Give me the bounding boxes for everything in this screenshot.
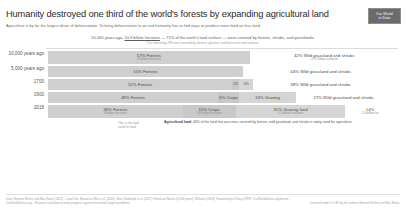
segment-label: 38% Wild grassland and shrubs — [290, 82, 350, 87]
segment-sublabel: +1% Urban surfaces — [310, 58, 338, 62]
segment-forest[interactable]: 48% Forests — [48, 92, 218, 103]
page-subtitle: Agriculture is by far the largest driver… — [6, 23, 398, 28]
chart-row: 190048% Forests6% Crops16% Grazing27% Wi… — [4, 92, 402, 103]
segment-crops[interactable]: 15% Crops1.6 billion hectares — [183, 105, 236, 118]
annotation-body: 46% of the land that was once covered by… — [192, 120, 353, 124]
owid-logo-line2: in Data — [369, 16, 400, 20]
row-label-1700: 1700 — [4, 79, 48, 84]
intro-text-underlined: 10.6 billion hectares — [124, 35, 160, 40]
row-label-10-000-years-ago: 10,000 years ago — [4, 51, 48, 56]
annotation-pointer-line2: used for food — [118, 125, 160, 129]
row-bars: 55% Forests44% Wild grassland and shrubs — [48, 66, 402, 77]
intro-text-before: 10,000 years ago, — [91, 35, 124, 40]
footer-owid-note: OurWorldInData.org – Research and data t… — [6, 202, 300, 206]
segment-forest[interactable]: 38% Forests4 billion hectares — [48, 105, 183, 118]
row-bars: 48% Forests6% Crops16% Grazing27% Wild g… — [48, 92, 402, 103]
intro-main-line: 10,000 years ago, 10.6 billion hectares … — [26, 35, 380, 40]
intro-divider — [46, 48, 398, 49]
chart-footer: Data: Hannah Ritchie and Max Roser (2021… — [6, 194, 400, 206]
segment-sublabel: 4 billion hectares — [104, 112, 127, 116]
segment-grazing[interactable]: 16% Grazing — [239, 92, 296, 103]
row-bars: 38% Forests4 billion hectares15% Crops1.… — [48, 105, 402, 118]
row-label-2018: 2018 — [4, 105, 48, 110]
segment-label: 48% Forests — [121, 95, 145, 100]
segment-label: 27% Wild grassland and shrubs — [313, 95, 373, 100]
chart-page: Humanity destroyed one third of the worl… — [0, 0, 406, 212]
annotation-text: Agricultural land: 46% of the land that … — [164, 120, 398, 124]
segment-grazing[interactable]: 4% — [239, 79, 253, 90]
chart-row: 10,000 years ago57% Forests6 billion hec… — [4, 51, 402, 64]
land-use-stacked-bar-chart: 10,000 years ago57% Forests6 billion hec… — [0, 51, 406, 118]
row-bars: 52% Forests2%4%38% Wild grassland and sh… — [48, 79, 402, 90]
footer-license: Licensed under CC-BY by the authors Hann… — [310, 202, 400, 206]
segment-wild[interactable]: 44% Wild grassland and shrubs — [243, 66, 399, 77]
segment-sublabel: 6 billion hectares — [137, 58, 160, 62]
segment-label: 44% Wild grassland and shrubs — [290, 69, 350, 74]
intro-sub-line: The remaining 29% was covered by deserts… — [26, 41, 380, 45]
segment-wild[interactable]: 42% Wild grassland and shrubs+1% Urban s… — [250, 51, 399, 64]
segment-sublabel: 1.4 billion ha — [361, 112, 378, 116]
segment-crops[interactable]: 2% — [232, 79, 239, 90]
segment-wild[interactable]: 27% Wild grassland and shrubs — [296, 92, 392, 103]
chart-header: Humanity destroyed one third of the worl… — [0, 0, 406, 28]
footer-row-2: OurWorldInData.org – Research and data t… — [6, 202, 400, 206]
segment-label: 16% Grazing — [255, 95, 280, 100]
page-title: Humanity destroyed one third of the worl… — [6, 9, 398, 20]
segment-label: 6% Crops — [219, 95, 238, 100]
segment-wild[interactable]: 38% Wild grassland and shrubs — [253, 79, 388, 90]
intro-text-after: — 71% of the earth's land surface — were… — [160, 35, 315, 40]
chart-intro-note: 10,000 years ago, 10.6 billion hectares … — [0, 35, 406, 45]
annotation-pointer-label: This is the land used for food — [118, 121, 160, 129]
segment-wild[interactable]: 14%1.4 billion ha — [345, 105, 395, 118]
chart-row: 170052% Forests2%4%38% Wild grassland an… — [4, 79, 402, 90]
segment-forest[interactable]: 55% Forests — [48, 66, 243, 77]
owid-logo[interactable]: Our World in Data — [368, 8, 401, 24]
segment-forest[interactable]: 57% Forests6 billion hectares — [48, 51, 250, 64]
segment-label: 2% — [233, 82, 238, 87]
annotation-bold-label: Agricultural land: — [164, 120, 192, 124]
agricultural-land-annotation: This is the land used for food Agricultu… — [0, 120, 406, 124]
segment-crops[interactable]: 6% Crops — [218, 92, 239, 103]
row-label-1900: 1900 — [4, 92, 48, 97]
chart-row: 5,000 years ago55% Forests44% Wild grass… — [4, 66, 402, 77]
segment-label: 4% — [244, 82, 249, 87]
row-bars: 57% Forests6 billion hectares42% Wild gr… — [48, 51, 402, 64]
segment-sublabel: 3.2 billion hectares — [278, 112, 304, 116]
segment-grazing[interactable]: 31% Grazing land3.2 billion hectares — [236, 105, 346, 118]
segment-sublabel: 1.6 billion hectares — [196, 112, 222, 116]
segment-forest[interactable]: 52% Forests — [48, 79, 232, 90]
chart-row: 201838% Forests4 billion hectares15% Cro… — [4, 105, 402, 118]
segment-label: 55% Forests — [133, 69, 157, 74]
segment-label: 52% Forests — [128, 82, 152, 87]
row-label-5-000-years-ago: 5,000 years ago — [4, 66, 48, 71]
